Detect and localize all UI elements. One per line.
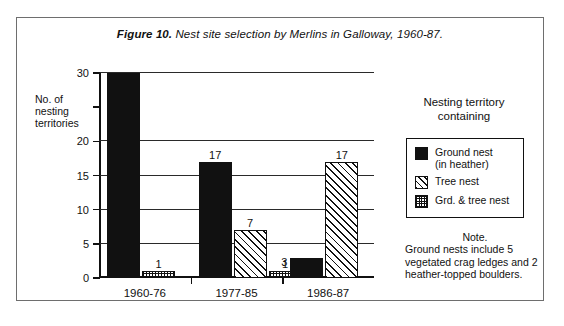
gridline xyxy=(99,140,374,141)
figure-frame: Figure 10. Nest site selection by Merlin… xyxy=(16,17,544,301)
x-axis-label: 1986-87 xyxy=(307,287,349,299)
figure-title: Figure 10. Nest site selection by Merlin… xyxy=(17,28,543,40)
bar: 1 xyxy=(142,271,175,278)
bar-value-label: 1 xyxy=(155,259,161,270)
legend-swatch-solid-icon xyxy=(415,147,428,160)
bar-value-label: 3 xyxy=(281,257,287,268)
bar: 17 xyxy=(199,162,232,278)
bar-value-label: 17 xyxy=(336,150,348,161)
legend-title-line1: Nesting territory xyxy=(423,96,504,108)
bar xyxy=(107,73,140,278)
note-heading: Note. xyxy=(405,231,545,243)
note-body: Ground nests include 5 vegetated crag le… xyxy=(405,243,545,280)
plot-area: 0510152030 11771317 1960-761977-851986-8… xyxy=(99,73,374,278)
legend-item: Tree nest xyxy=(415,175,523,189)
y-axis-tick xyxy=(93,106,100,107)
y-axis-tick xyxy=(93,141,100,142)
legend-title: Nesting territory containing xyxy=(389,96,539,124)
bar-value-label: 17 xyxy=(209,150,221,161)
legend-item-sublabel: (in heather) xyxy=(435,158,493,170)
y-axis-title: No. of nesting territories xyxy=(35,94,97,129)
bar: 7 xyxy=(234,230,267,278)
figure-number: Figure 10. xyxy=(117,28,172,40)
bar: 3 xyxy=(290,258,323,279)
y-axis-label: 10 xyxy=(77,204,89,215)
y-axis-tick xyxy=(93,72,100,73)
x-axis-tick xyxy=(282,277,283,284)
y-axis-label: 15 xyxy=(77,170,89,181)
legend-item: Ground nest(in heather) xyxy=(415,146,523,170)
legend-title-line2: containing xyxy=(438,110,490,122)
y-axis-label: 0 xyxy=(83,273,89,284)
legend-item-label: Grd. & tree nest xyxy=(435,194,509,206)
y-axis-tick xyxy=(93,175,100,176)
x-axis-tick xyxy=(191,277,192,284)
y-axis-label: 20 xyxy=(77,136,89,147)
y-axis-tick xyxy=(93,243,100,244)
y-axis-label: 30 xyxy=(77,68,89,79)
gridline xyxy=(99,72,374,73)
note-block: Note. Ground nests include 5 vegetated c… xyxy=(405,231,545,281)
y-axis-tick xyxy=(93,277,100,278)
legend-swatch-hatch-icon xyxy=(415,176,428,189)
y-axis-tick xyxy=(93,209,100,210)
bar-value-label: 7 xyxy=(247,218,253,229)
x-axis-label: 1960-76 xyxy=(124,287,166,299)
y-axis-label: 5 xyxy=(83,238,89,249)
legend-box: Ground nest(in heather)Tree nestGrd. & t… xyxy=(406,138,524,218)
figure-title-text: Nest site selection by Merlins in Gallow… xyxy=(172,28,443,40)
legend-swatch-stipple-icon xyxy=(415,195,428,208)
bar: 17 xyxy=(325,162,358,278)
legend-item: Grd. & tree nest xyxy=(415,194,523,208)
x-axis-label: 1977-85 xyxy=(215,287,257,299)
legend-item-label: Ground nest(in heather) xyxy=(435,146,493,170)
legend-item-label: Tree nest xyxy=(435,175,479,187)
